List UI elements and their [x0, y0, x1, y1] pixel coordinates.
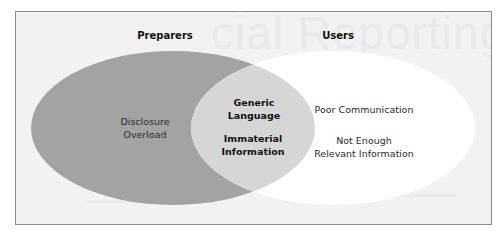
users-title: Users — [322, 30, 354, 43]
immaterial-line-1: Immaterial — [221, 133, 284, 146]
preparers-title: Preparers — [137, 30, 193, 43]
not-enough-relevant-information-label: Not Enough Relevant Information — [314, 135, 414, 160]
disclosure-overload-label: Disclosure Overload — [120, 116, 169, 141]
generic-line-2: Language — [228, 110, 280, 123]
immaterial-information-label: Immaterial Information — [221, 133, 284, 158]
generic-language-label: Generic Language — [228, 97, 280, 122]
immaterial-line-2: Information — [221, 146, 284, 159]
not-enough-line-1: Not Enough — [314, 135, 414, 148]
disclosure-line-2: Overload — [120, 129, 169, 142]
not-enough-line-2: Relevant Information — [314, 148, 414, 161]
generic-line-1: Generic — [228, 97, 280, 110]
poor-communication-label: Poor Communication — [315, 104, 414, 117]
disclosure-line-1: Disclosure — [120, 116, 169, 129]
